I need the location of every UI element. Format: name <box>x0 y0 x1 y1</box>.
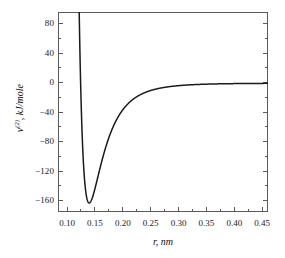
lennard-jones-curve <box>76 12 268 203</box>
y-axis-title-superscript: (2) <box>13 120 20 128</box>
y-tick-label: −120 <box>20 167 54 176</box>
x-axis-title: r, nm <box>58 236 268 247</box>
x-axis-tick-labels: 0.10 0.15 0.20 0.25 0.30 0.35 0.40 0.45 <box>0 218 285 232</box>
plot-area <box>58 12 268 212</box>
x-tick-label: 0.45 <box>242 218 282 228</box>
y-tick-label: 40 <box>20 49 54 58</box>
y-tick-label: 80 <box>20 19 54 28</box>
y-axis-title: v(2), kJ/mole <box>13 58 25 158</box>
y-axis-title-symbol: v <box>14 128 25 132</box>
y-tick-label: −160 <box>20 196 54 205</box>
y-axis-title-units: , kJ/mole <box>14 84 25 120</box>
chart-figure: 80 40 0 −40 −80 −120 −160 v(2), kJ/mole <box>0 0 285 258</box>
potential-curve-svg <box>58 12 268 212</box>
